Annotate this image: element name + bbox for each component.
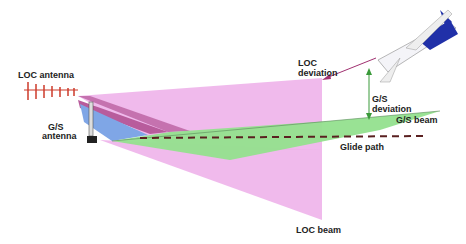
loc-antenna-label: LOC antenna xyxy=(18,70,74,80)
glide-path-label: Glide path xyxy=(340,142,384,152)
gs-beam-label: G/S beam xyxy=(396,115,438,125)
gs-deviation-label-1: G/S xyxy=(372,94,388,104)
loc-deviation-label-2: deviation xyxy=(298,68,338,78)
loc-beam-label: LOC beam xyxy=(296,225,341,235)
aircraft-icon xyxy=(378,10,458,82)
gs-antenna-label-2: antenna xyxy=(42,131,77,141)
gs-deviation-label-2: deviation xyxy=(372,104,412,114)
loc-deviation-label-1: LOC xyxy=(298,58,317,68)
loc-antenna-icon xyxy=(24,82,78,100)
